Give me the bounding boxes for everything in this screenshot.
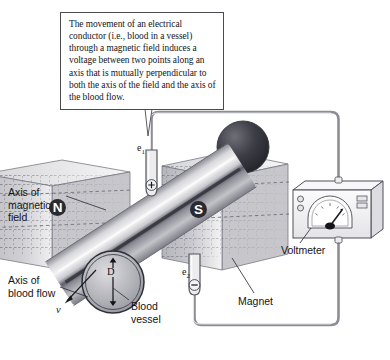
meter-terminal-lower <box>357 203 367 208</box>
e1-subscript: 1 <box>141 148 145 156</box>
label-diameter: D <box>107 266 115 277</box>
pole-label-south: S <box>190 201 207 218</box>
label-blood-vessel: Blood vessel <box>131 300 161 325</box>
explanatory-caption: The movement of an electrical conductor … <box>60 12 224 110</box>
gauge-pivot <box>325 222 335 229</box>
pole-label-north: N <box>49 199 66 216</box>
label-axis-of-blood-flow: Axis of blood flow <box>8 274 55 299</box>
label-axis-of-magnetic-field: Axis of magnetic field <box>8 186 51 224</box>
label-voltmeter: Voltmeter <box>281 244 325 257</box>
meter-terminal-upper <box>357 196 367 201</box>
meter-knob-lower <box>298 205 304 211</box>
electrode-e1 <box>146 150 157 196</box>
e2-subscript: 2 <box>186 272 190 280</box>
voltmeter-device[interactable] <box>293 177 383 243</box>
label-electrode-e2: e2 <box>182 266 190 280</box>
label-velocity: v <box>56 304 61 315</box>
polarity-minus-icon <box>189 280 200 291</box>
figure-canvas: N S The movement of an electrical conduc… <box>0 0 390 360</box>
meter-bottom-socket <box>335 237 342 243</box>
label-electrode-e1: e1 <box>137 142 145 156</box>
meter-top-socket <box>335 177 342 183</box>
meter-knob-upper <box>298 196 304 202</box>
label-magnet: Magnet <box>238 295 273 308</box>
polarity-plus-icon <box>146 180 157 191</box>
electrode-e2 <box>189 254 200 295</box>
